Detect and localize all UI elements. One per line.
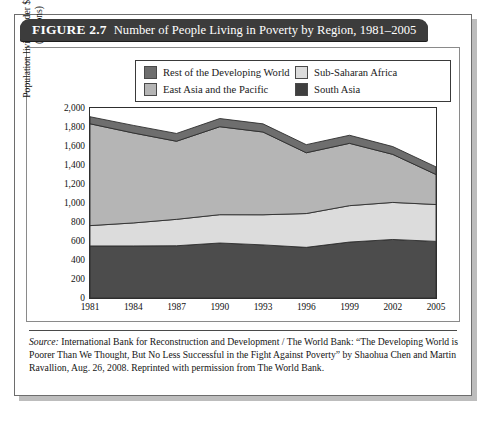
x-tick-1984: 1984 xyxy=(124,302,143,312)
legend-swatch-east-asia-and-the-pacific xyxy=(144,83,157,96)
y-tick-2000: 2,000 xyxy=(64,103,85,113)
plot-frame xyxy=(89,107,437,299)
figure-number: FIGURE 2.7 xyxy=(32,22,107,38)
y-tick-1400: 1,400 xyxy=(64,160,85,170)
y-axis-tick-labels: 02004006008001,0001,2001,4001,6001,8002,… xyxy=(27,107,85,299)
figure-page: FIGURE 2.7 Number of People Living in Po… xyxy=(0,0,490,427)
source-label: Source: xyxy=(29,336,59,347)
figure-header-bar: FIGURE 2.7 Number of People Living in Po… xyxy=(20,19,428,41)
legend-item-rest-of-developing-world[interactable]: Rest of the Developing World xyxy=(144,66,291,79)
source-text: International Bank for Reconstruction an… xyxy=(29,336,458,373)
legend-item-south-asia[interactable]: South Asia xyxy=(295,83,442,96)
source-note: Source: International Bank for Reconstru… xyxy=(29,335,459,375)
legend-swatch-south-asia xyxy=(295,83,308,96)
x-tick-2005: 2005 xyxy=(427,302,446,312)
y-tick-1200: 1,200 xyxy=(64,179,85,189)
legend-label-south-asia: South Asia xyxy=(314,84,360,95)
y-axis-title: Population living under $1.25 per day (m… xyxy=(21,0,44,100)
legend-swatch-rest-of-developing-world xyxy=(144,66,157,79)
chart-legend: Rest of the Developing World Sub-Saharan… xyxy=(135,60,451,102)
y-tick-400: 400 xyxy=(71,255,85,265)
source-divider xyxy=(29,330,457,331)
y-axis-title-line2: (millions) xyxy=(33,0,45,100)
plot-area xyxy=(89,107,437,299)
x-tick-1993: 1993 xyxy=(254,302,273,312)
figure-title: Number of People Living in Poverty by Re… xyxy=(114,23,417,38)
chart-panel: Rest of the Developing World Sub-Saharan… xyxy=(26,47,460,322)
x-tick-1990: 1990 xyxy=(210,302,229,312)
x-tick-1987: 1987 xyxy=(167,302,186,312)
y-tick-600: 600 xyxy=(71,236,85,246)
x-axis-tick-labels: 198119841987199019931996199920022005 xyxy=(89,302,437,316)
y-tick-1800: 1,800 xyxy=(64,122,85,132)
legend-item-east-asia-and-the-pacific[interactable]: East Asia and the Pacific xyxy=(144,83,291,96)
x-tick-1996: 1996 xyxy=(297,302,316,312)
x-tick-1981: 1981 xyxy=(81,302,100,312)
legend-label-east-asia-and-the-pacific: East Asia and the Pacific xyxy=(163,84,268,95)
x-tick-1999: 1999 xyxy=(340,302,359,312)
y-tick-200: 200 xyxy=(71,274,85,284)
y-tick-1600: 1,600 xyxy=(64,141,85,151)
stacked-area-svg xyxy=(90,108,436,298)
legend-label-sub-saharan-africa: Sub-Saharan Africa xyxy=(314,67,397,78)
y-tick-800: 800 xyxy=(71,217,85,227)
x-tick-2002: 2002 xyxy=(383,302,402,312)
legend-swatch-sub-saharan-africa xyxy=(295,66,308,79)
y-axis-title-line1: Population living under $1.25 per day xyxy=(21,0,33,100)
area-series-south-asia xyxy=(90,239,436,298)
y-tick-1000: 1,000 xyxy=(64,198,85,208)
legend-item-sub-saharan-africa[interactable]: Sub-Saharan Africa xyxy=(295,66,442,79)
legend-label-rest-of-developing-world: Rest of the Developing World xyxy=(163,67,290,78)
